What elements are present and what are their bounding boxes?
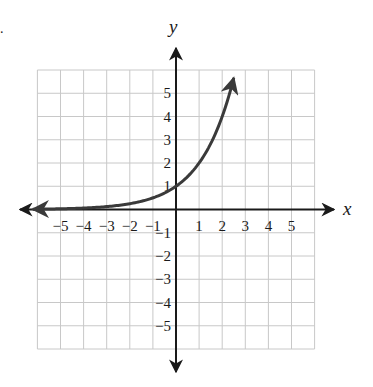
x-tick-label: −3 <box>99 218 115 234</box>
x-tick-label: 1 <box>195 218 203 234</box>
problem-marker: . <box>0 21 4 36</box>
x-tick-label: 3 <box>242 218 250 234</box>
x-axis-label: x <box>342 198 352 219</box>
y-tick-label: 2 <box>164 155 172 171</box>
curve <box>33 78 234 209</box>
y-axis-label: y <box>167 16 178 37</box>
exponential-graph: . −5−4−3−2−11234554321−1−2−3−4−5 x y <box>0 0 373 387</box>
y-tick-label: −5 <box>155 318 171 334</box>
x-tick-label: −2 <box>122 218 138 234</box>
x-tick-label: −5 <box>53 218 69 234</box>
y-tick-label: −4 <box>155 295 171 311</box>
y-tick-label: 5 <box>164 85 172 101</box>
y-tick-label: −2 <box>155 248 171 264</box>
x-tick-label: −4 <box>76 218 92 234</box>
y-tick-label: −1 <box>155 225 171 241</box>
y-tick-label: −3 <box>155 271 171 287</box>
x-tick-label: 2 <box>218 218 226 234</box>
exponential-curve <box>33 78 234 209</box>
y-tick-label: 4 <box>164 109 172 125</box>
y-tick-label: 3 <box>164 132 172 148</box>
x-tick-label: 5 <box>288 218 296 234</box>
x-tick-label: 4 <box>265 218 273 234</box>
